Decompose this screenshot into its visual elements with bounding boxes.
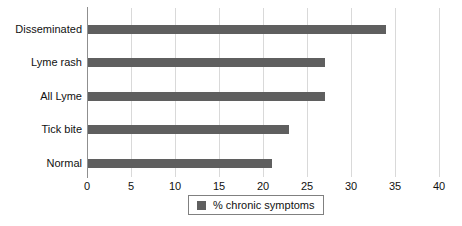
gridline xyxy=(395,8,396,177)
category-label: All Lyme xyxy=(0,90,82,103)
tick-label: 40 xyxy=(424,180,454,192)
bar xyxy=(88,58,325,67)
tick-label: 0 xyxy=(72,180,102,192)
gridline xyxy=(439,8,440,177)
bar xyxy=(88,92,325,101)
legend-swatch-icon xyxy=(197,201,206,210)
category-label: Tick bite xyxy=(0,123,82,136)
tick-label: 10 xyxy=(160,180,190,192)
tick-label: 30 xyxy=(336,180,366,192)
category-label: Normal xyxy=(0,157,82,170)
tick-label: 20 xyxy=(248,180,278,192)
tick-label: 35 xyxy=(380,180,410,192)
legend: % chronic symptoms xyxy=(188,195,324,215)
bar xyxy=(88,125,289,134)
tick-label: 25 xyxy=(292,180,322,192)
category-label: Lyme rash xyxy=(0,56,82,69)
category-label: Disseminated xyxy=(0,23,82,36)
bar xyxy=(88,159,272,168)
legend-label: % chronic symptoms xyxy=(213,199,314,211)
tick-label: 15 xyxy=(204,180,234,192)
bar xyxy=(88,25,386,34)
tick-label: 5 xyxy=(116,180,146,192)
bar-chart: DisseminatedLyme rashAll LymeTick biteNo… xyxy=(0,0,462,226)
